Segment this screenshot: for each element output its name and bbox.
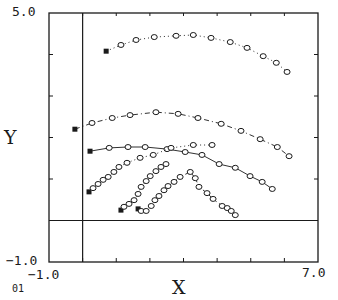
data-series	[72, 32, 292, 217]
reference-lines	[49, 13, 318, 262]
data-point	[171, 179, 177, 184]
data-point	[150, 152, 156, 157]
data-point	[142, 145, 148, 150]
data-point	[177, 174, 183, 179]
data-point	[273, 60, 279, 65]
start-marker	[88, 149, 93, 154]
figure-corner-label: 01	[12, 283, 24, 294]
data-point	[111, 169, 117, 174]
data-point	[116, 164, 122, 169]
data-point	[143, 179, 149, 184]
data-point	[204, 191, 210, 196]
data-point	[218, 121, 224, 126]
data-point	[148, 203, 154, 208]
data-point	[133, 37, 139, 42]
data-point	[216, 162, 222, 167]
data-point	[257, 137, 263, 142]
start-marker	[104, 49, 109, 54]
data-point	[151, 35, 157, 40]
data-point	[143, 208, 149, 213]
x-axis-min-label: −1.0	[28, 267, 59, 282]
data-point	[90, 186, 96, 191]
data-point	[274, 145, 280, 150]
data-point	[165, 184, 171, 189]
data-point	[138, 184, 144, 189]
data-point	[260, 54, 266, 59]
data-point	[163, 162, 169, 167]
data-point	[227, 40, 233, 45]
data-point	[232, 165, 238, 170]
data-point	[187, 169, 193, 174]
data-point	[196, 184, 202, 189]
y-axis-title: Y	[4, 126, 17, 148]
data-point	[238, 128, 244, 133]
data-point	[95, 181, 101, 186]
data-point	[269, 186, 275, 191]
data-point	[210, 196, 216, 201]
data-point	[156, 194, 162, 199]
data-point	[182, 150, 188, 155]
data-point	[127, 113, 133, 118]
data-point	[147, 174, 153, 179]
x-axis-title: X	[172, 276, 186, 298]
data-point	[135, 191, 141, 196]
series-trajectory-1	[104, 32, 290, 74]
data-point	[259, 179, 265, 184]
data-point	[131, 198, 137, 203]
data-point	[190, 32, 196, 37]
data-point	[190, 142, 196, 147]
start-marker	[72, 127, 77, 132]
data-point	[208, 35, 214, 40]
data-point	[125, 145, 131, 150]
data-point	[106, 145, 112, 150]
data-point	[244, 45, 250, 50]
data-point	[192, 176, 198, 181]
data-point	[209, 142, 215, 147]
data-point	[153, 169, 159, 174]
x-axis-max-label: 7.0	[302, 265, 325, 280]
data-point	[126, 201, 132, 206]
data-point	[286, 154, 292, 159]
y-axis-max-label: 5.0	[12, 4, 35, 19]
data-point	[247, 174, 253, 179]
y-axis-min-label: −1.0	[6, 253, 37, 268]
plot-frame	[49, 13, 318, 262]
data-point	[153, 110, 159, 115]
data-point	[89, 120, 95, 125]
data-point	[118, 42, 124, 47]
data-point	[284, 69, 290, 74]
data-point	[105, 174, 111, 179]
series-trajectory-5	[118, 162, 169, 213]
data-point	[137, 155, 143, 160]
axis-ticks	[49, 13, 318, 262]
data-point	[195, 115, 201, 120]
data-point	[232, 213, 238, 218]
data-point	[173, 33, 179, 38]
data-point	[175, 111, 181, 116]
data-point	[199, 152, 205, 157]
data-point	[109, 115, 115, 120]
data-point	[168, 145, 174, 150]
plot-border	[49, 13, 318, 262]
data-point	[124, 160, 130, 165]
series-line	[89, 145, 212, 192]
chart-plot	[0, 0, 338, 300]
